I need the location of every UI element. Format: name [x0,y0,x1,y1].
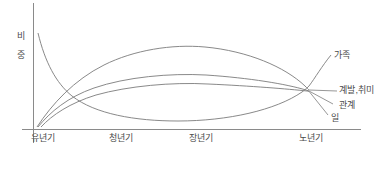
life-stage-priority-chart: 비 중 유년기 청년기 장년기 노년기 가족 계발,취미 관계 일 [0,0,385,174]
series-label-relationship: 관계 [339,100,355,110]
y-axis-label-char-1: 비 [14,27,28,46]
series-curve-development-hobby [37,46,309,127]
series-curve-family [38,33,309,121]
leader-work [309,91,328,115]
x-axis-label-childhood: 유년기 [20,133,66,143]
x-axis-label-old-age: 노년기 [288,133,334,143]
y-axis-label: 비 중 [14,27,28,65]
series-label-development-hobby: 계발,취미 [339,85,375,95]
x-axis-label-middle-age: 장년기 [178,133,224,143]
leader-development-hobby [309,90,337,91]
series-curve-work [41,83,309,127]
y-axis-label-char-2: 중 [14,46,28,65]
x-axis-label-youth: 청년기 [98,133,144,143]
series-curve-family-tail [309,55,331,86]
chart-canvas [0,0,385,174]
series-label-work: 일 [331,113,339,123]
series-label-family: 가족 [334,50,350,60]
leader-relationship [309,91,333,104]
